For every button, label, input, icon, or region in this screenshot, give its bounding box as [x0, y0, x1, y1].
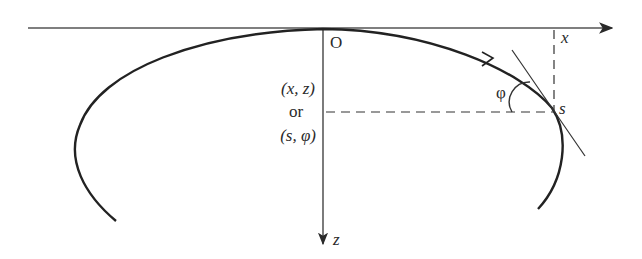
z-axis-label: z [332, 230, 340, 249]
tangent-line [512, 50, 585, 156]
coordinates-sphi-label: (s, φ) [280, 126, 316, 145]
origin-label: O [330, 33, 342, 52]
point-s-label: s [559, 99, 566, 118]
coordinates-or-label: or [289, 102, 304, 121]
meniscus-curve [75, 29, 563, 221]
x-axis-label: x [560, 28, 569, 47]
diagram-canvas: O x z s φ (x, z) or (s, φ) [0, 0, 642, 259]
angle-phi-label: φ [496, 83, 506, 102]
coordinates-xz-label: (x, z) [281, 79, 315, 98]
